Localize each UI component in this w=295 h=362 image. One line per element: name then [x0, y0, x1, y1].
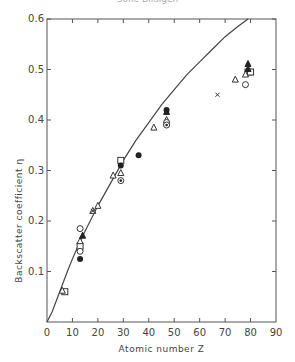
- marker-circle: [77, 226, 83, 232]
- scatter-chart: 01020304050607080900.10.20.30.40.50.6Ato…: [0, 0, 295, 362]
- marker-cross: [215, 93, 219, 97]
- theory-curve: [47, 19, 248, 322]
- marker-triangle: [118, 170, 124, 176]
- x-axis-label: Atomic number Z: [119, 344, 205, 354]
- marker-triangle: [151, 124, 157, 130]
- x-tick-label: 90: [270, 327, 283, 338]
- x-tick-label: 30: [117, 327, 130, 338]
- x-tick-label: 50: [168, 327, 181, 338]
- marker-dot: [165, 124, 168, 127]
- x-tick-label: 60: [193, 327, 206, 338]
- marker-circle-filled: [77, 256, 83, 262]
- y-tick-label: 0.1: [28, 266, 44, 277]
- y-tick-label: 0.3: [28, 165, 44, 176]
- y-tick-label: 0.6: [28, 13, 44, 24]
- y-tick-label: 0.5: [28, 64, 44, 75]
- marker-circle-filled: [136, 152, 142, 158]
- plot-frame: [47, 19, 276, 322]
- y-tick-label: 0.4: [28, 114, 44, 125]
- x-tick-label: 0: [44, 327, 50, 338]
- x-tick-label: 10: [66, 327, 79, 338]
- x-tick-label: 80: [244, 327, 257, 338]
- y-tick-label: 0.2: [28, 215, 44, 226]
- marker-circle: [242, 82, 248, 88]
- marker-circle-filled: [118, 162, 124, 168]
- marker-dot: [119, 179, 122, 182]
- x-tick-label: 70: [219, 327, 232, 338]
- y-axis-label: Backscatter coefficient η: [14, 158, 24, 282]
- marker-circle: [77, 248, 83, 254]
- marker-triangle: [232, 76, 238, 82]
- x-tick-label: 20: [92, 327, 105, 338]
- x-tick-label: 40: [142, 327, 155, 338]
